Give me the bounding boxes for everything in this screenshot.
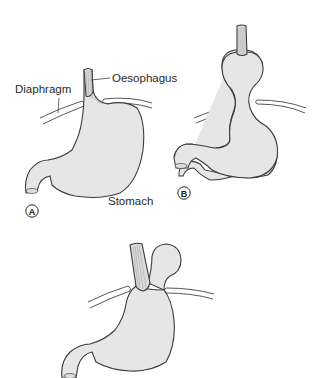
- diaphragm-right-c: [165, 288, 215, 299]
- diaphragm-label: Diaphragm: [15, 83, 71, 95]
- svg-text:A: A: [29, 207, 36, 217]
- oesophagus-leader: [91, 78, 110, 80]
- panel-a-badge: A: [26, 205, 38, 217]
- svg-text:B: B: [181, 189, 188, 199]
- oesophagus-label: Oesophagus: [112, 72, 177, 84]
- pylorus-a: [26, 189, 38, 194]
- stomach-label: Stomach: [108, 195, 153, 207]
- oesophagus-b: [237, 25, 247, 56]
- anatomy-diagram: Diaphragm Oesophagus Stomach A: [0, 0, 323, 378]
- pylorus-b: [175, 164, 187, 169]
- pylorus-c: [64, 374, 76, 378]
- panel-c: [62, 243, 214, 378]
- panel-a: Diaphragm Oesophagus Stomach A: [15, 69, 177, 218]
- diaphragm-left-a: [40, 101, 85, 124]
- diaphragm-leader: [58, 98, 59, 113]
- panel-b-badge: B: [178, 187, 190, 199]
- stomach-c: [62, 286, 175, 378]
- herniated-fundus-c: [148, 244, 181, 290]
- diaphragm-right-b: [256, 100, 307, 113]
- diaphragm-left-c: [88, 286, 131, 308]
- panel-b: B: [174, 25, 306, 199]
